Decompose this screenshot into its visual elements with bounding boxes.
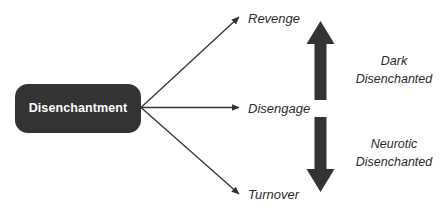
source-construct-box: Disenchantment: [15, 84, 141, 133]
outcome-label-revenge: Revenge: [248, 12, 300, 25]
connector-to-turnover: [141, 108, 239, 195]
cluster-label-neurotic-disenchanted: Neurotic Disenchanted: [346, 135, 442, 171]
cluster-label-dark-line2: Disenchanted: [346, 70, 442, 88]
connector-group: [141, 17, 239, 194]
outcome-label-turnover: Turnover: [248, 188, 299, 201]
source-construct-label: Disenchantment: [29, 102, 128, 115]
connector-to-revenge: [141, 17, 239, 108]
cluster-label-dark-disenchanted: Dark Disenchanted: [346, 52, 442, 88]
cluster-label-neurotic-line2: Disenchanted: [346, 153, 442, 171]
block-arrow-group: [307, 21, 335, 192]
down-block-arrow-icon: [307, 117, 335, 192]
diagram-canvas: Disenchantment Revenge Disengage Turnove…: [0, 0, 442, 214]
cluster-label-dark-line1: Dark: [346, 52, 442, 70]
cluster-label-neurotic-line1: Neurotic: [346, 135, 442, 153]
outcome-label-disengage: Disengage: [248, 102, 310, 115]
up-block-arrow-icon: [307, 21, 335, 100]
